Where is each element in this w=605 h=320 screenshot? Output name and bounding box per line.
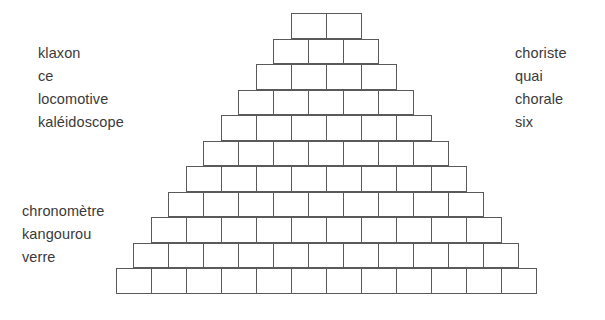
pyramid-cell[interactable] (326, 64, 362, 90)
pyramid-cell[interactable] (256, 166, 292, 192)
pyramid-row (221, 115, 432, 141)
pyramid-cell[interactable] (343, 90, 379, 116)
pyramid-cell[interactable] (256, 64, 292, 90)
pyramid-cell[interactable] (448, 192, 484, 218)
pyramid-row (133, 243, 519, 269)
pyramid-cell[interactable] (378, 243, 414, 269)
pyramid-cell[interactable] (326, 217, 362, 243)
pyramid-cell[interactable] (396, 268, 432, 294)
pyramid-row (151, 217, 502, 243)
pyramid-cell[interactable] (273, 192, 309, 218)
pyramid-cell[interactable] (186, 166, 222, 192)
pyramid-cell[interactable] (291, 64, 327, 90)
pyramid-cell[interactable] (151, 217, 187, 243)
pyramid-row (273, 39, 379, 65)
pyramid-cell[interactable] (361, 217, 397, 243)
pyramid-cell[interactable] (501, 268, 537, 294)
pyramid-cell[interactable] (291, 268, 327, 294)
pyramid-cell[interactable] (238, 192, 274, 218)
pyramid-cell[interactable] (308, 90, 344, 116)
pyramid-row (203, 141, 449, 167)
pyramid-cell[interactable] (273, 141, 309, 167)
pyramid-cell[interactable] (413, 141, 449, 167)
pyramid-cell[interactable] (203, 243, 239, 269)
pyramid-cell[interactable] (273, 243, 309, 269)
pyramid-cell[interactable] (378, 192, 414, 218)
pyramid-row (186, 166, 467, 192)
pyramid-cell[interactable] (238, 90, 274, 116)
pyramid-cell[interactable] (221, 217, 257, 243)
pyramid-row (116, 268, 537, 294)
pyramid-cell[interactable] (378, 141, 414, 167)
pyramid-cell[interactable] (326, 268, 362, 294)
pyramid-cell[interactable] (431, 166, 467, 192)
pyramid-cell[interactable] (168, 243, 204, 269)
pyramid-cell[interactable] (273, 39, 309, 65)
pyramid-cell[interactable] (413, 192, 449, 218)
pyramid-cell[interactable] (291, 217, 327, 243)
pyramid-cell[interactable] (238, 141, 274, 167)
pyramid-cell[interactable] (343, 141, 379, 167)
pyramid-cell[interactable] (483, 243, 519, 269)
pyramid-row (238, 90, 414, 116)
pyramid-cell[interactable] (186, 268, 222, 294)
pyramid-cell[interactable] (326, 115, 362, 141)
pyramid-cell[interactable] (361, 268, 397, 294)
pyramid-cell[interactable] (431, 268, 467, 294)
pyramid-cell[interactable] (308, 243, 344, 269)
pyramid-cell[interactable] (431, 217, 467, 243)
pyramid-cell[interactable] (466, 268, 502, 294)
pyramid-cell[interactable] (466, 217, 502, 243)
pyramid-cell[interactable] (361, 115, 397, 141)
pyramid-cell[interactable] (273, 90, 309, 116)
pyramid-cell[interactable] (343, 39, 379, 65)
pyramid-cell[interactable] (256, 268, 292, 294)
pyramid-cell[interactable] (291, 166, 327, 192)
worksheet-canvas: klaxon ce locomotive kaléidoscope choris… (0, 0, 605, 320)
pyramid-cell[interactable] (326, 13, 362, 39)
pyramid-cell[interactable] (448, 243, 484, 269)
pyramid-cell[interactable] (361, 166, 397, 192)
pyramid-cell[interactable] (396, 217, 432, 243)
pyramid-cell[interactable] (308, 39, 344, 65)
pyramid-cell[interactable] (308, 192, 344, 218)
pyramid-cell[interactable] (186, 217, 222, 243)
pyramid-cell[interactable] (238, 243, 274, 269)
pyramid-cell[interactable] (413, 243, 449, 269)
pyramid-cell[interactable] (291, 115, 327, 141)
pyramid-cell[interactable] (256, 217, 292, 243)
word-pyramid (0, 0, 605, 320)
pyramid-cell[interactable] (116, 268, 152, 294)
pyramid-cell[interactable] (203, 141, 239, 167)
pyramid-cell[interactable] (203, 192, 239, 218)
pyramid-cell[interactable] (291, 13, 327, 39)
pyramid-cell[interactable] (326, 166, 362, 192)
pyramid-cell[interactable] (396, 166, 432, 192)
pyramid-cell[interactable] (133, 243, 169, 269)
pyramid-cell[interactable] (361, 64, 397, 90)
pyramid-cell[interactable] (221, 166, 257, 192)
pyramid-cell[interactable] (378, 90, 414, 116)
pyramid-cell[interactable] (221, 115, 257, 141)
pyramid-cell[interactable] (256, 115, 292, 141)
pyramid-cell[interactable] (168, 192, 204, 218)
pyramid-cell[interactable] (221, 268, 257, 294)
pyramid-cell[interactable] (151, 268, 187, 294)
pyramid-row (291, 13, 362, 39)
pyramid-cell[interactable] (308, 141, 344, 167)
pyramid-row (256, 64, 397, 90)
pyramid-cell[interactable] (343, 192, 379, 218)
pyramid-cell[interactable] (396, 115, 432, 141)
pyramid-row (168, 192, 484, 218)
pyramid-cell[interactable] (343, 243, 379, 269)
